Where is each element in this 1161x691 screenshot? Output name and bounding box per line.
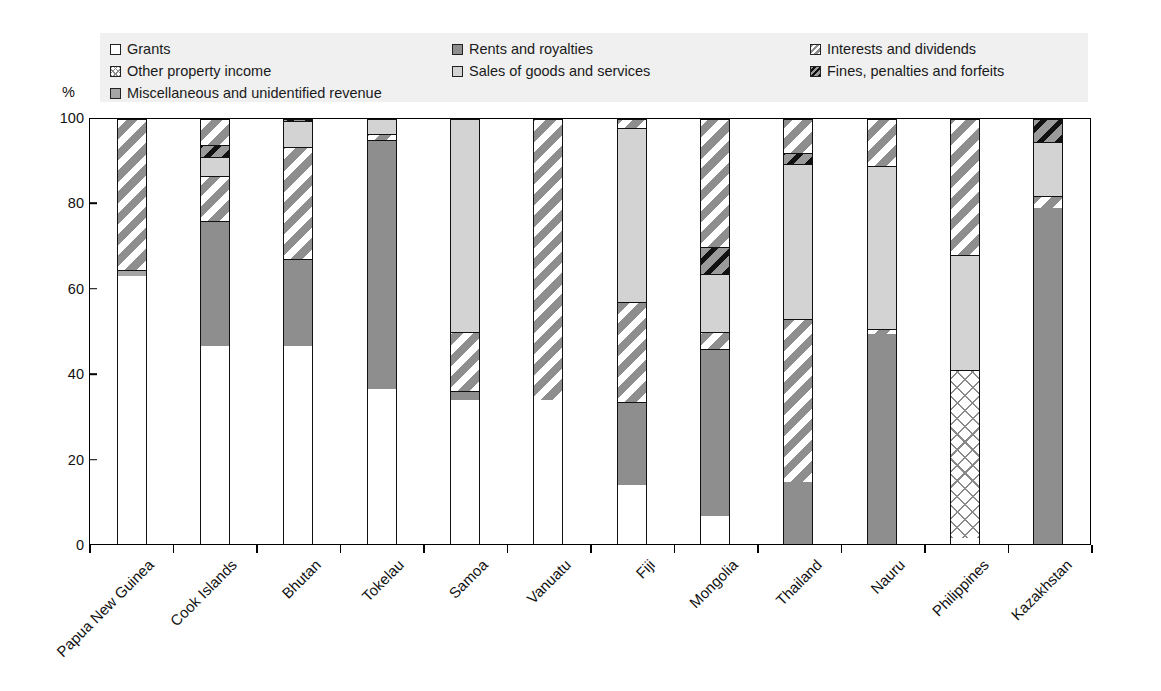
x-axis-tick-mark xyxy=(423,545,425,553)
bar-segment[interactable] xyxy=(951,119,979,255)
bar-segment[interactable] xyxy=(118,119,146,270)
bar-segment[interactable] xyxy=(118,276,146,544)
bar-slot xyxy=(257,119,340,544)
bar-segment[interactable] xyxy=(451,391,479,400)
stacked-bar[interactable] xyxy=(783,119,813,544)
stacked-bar[interactable] xyxy=(117,119,147,544)
bar-segment[interactable] xyxy=(1034,119,1062,142)
bar-segment[interactable] xyxy=(951,370,979,538)
bar-segment[interactable] xyxy=(368,119,396,134)
stacked-bar[interactable] xyxy=(450,119,480,544)
bar-segment[interactable] xyxy=(784,119,812,153)
bar-segment[interactable] xyxy=(368,389,396,544)
bar-segment[interactable] xyxy=(951,255,979,370)
legend-swatch-other-property-income xyxy=(110,66,121,77)
bar-segment[interactable] xyxy=(951,538,979,544)
bar-segment[interactable] xyxy=(618,402,646,485)
bar-segment[interactable] xyxy=(201,221,229,346)
x-axis-tick-mark xyxy=(1091,545,1093,553)
y-axis: 020406080100 xyxy=(40,0,84,691)
legend-column-2: Rents and royaltiesSales of goods and se… xyxy=(452,38,802,82)
bar-slot xyxy=(173,119,256,544)
bar-slot xyxy=(923,119,1006,544)
bar-segment[interactable] xyxy=(618,302,646,402)
y-axis-tick-label: 20 xyxy=(50,452,84,468)
bar-segment[interactable] xyxy=(701,274,729,331)
stacked-bar[interactable] xyxy=(700,119,730,544)
x-axis-category-label: Vanuatu xyxy=(524,556,575,607)
bars-container xyxy=(90,119,1090,544)
bar-segment[interactable] xyxy=(1034,208,1062,544)
bar-segment[interactable] xyxy=(201,346,229,544)
bar-segment[interactable] xyxy=(284,121,312,147)
x-axis-category-label: Tokelau xyxy=(359,556,408,605)
y-axis-tick-label: 100 xyxy=(50,110,84,126)
bar-segment[interactable] xyxy=(701,332,729,349)
bar-segment[interactable] xyxy=(784,319,812,483)
bar-segment[interactable] xyxy=(784,153,812,164)
bar-segment[interactable] xyxy=(451,332,479,392)
bar-segment[interactable] xyxy=(784,164,812,319)
legend-swatch-sales-of-goods-and-services xyxy=(452,66,463,77)
legend-item: Miscellaneous and unidentified revenue xyxy=(110,82,470,104)
legend-item-label: Miscellaneous and unidentified revenue xyxy=(127,82,382,104)
x-axis-category-label: Mongolia xyxy=(686,556,741,611)
bar-segment[interactable] xyxy=(618,128,646,302)
stacked-bar[interactable] xyxy=(950,119,980,544)
bar-segment[interactable] xyxy=(868,166,896,330)
bar-segment[interactable] xyxy=(701,119,729,247)
bar-segment[interactable] xyxy=(284,259,312,346)
bar-segment[interactable] xyxy=(701,516,729,544)
bar-segment[interactable] xyxy=(451,119,479,332)
y-axis-tick-label: 80 xyxy=(50,195,84,211)
bar-segment[interactable] xyxy=(201,145,229,158)
bar-slot xyxy=(840,119,923,544)
bar-segment[interactable] xyxy=(784,482,812,544)
legend-item-label: Other property income xyxy=(127,60,271,82)
bar-segment[interactable] xyxy=(284,346,312,544)
stacked-bar[interactable] xyxy=(533,119,563,544)
bar-segment[interactable] xyxy=(284,147,312,260)
x-axis-tick-mark xyxy=(256,545,258,553)
x-axis-category-label: Bhutan xyxy=(278,556,324,602)
bar-segment[interactable] xyxy=(1034,142,1062,195)
bar-segment[interactable] xyxy=(451,400,479,545)
bar-segment[interactable] xyxy=(701,349,729,517)
bar-slot xyxy=(590,119,673,544)
legend-swatch-miscellaneous xyxy=(110,88,121,99)
x-axis-tick-mark xyxy=(507,545,509,553)
bar-segment[interactable] xyxy=(368,140,396,389)
x-axis-tick-mark xyxy=(1008,545,1010,553)
legend-item: Fines, penalties and forfeits xyxy=(810,60,1085,82)
bar-segment[interactable] xyxy=(201,157,229,176)
stacked-bar[interactable] xyxy=(200,119,230,544)
plot-area xyxy=(89,118,1091,545)
bar-segment[interactable] xyxy=(534,119,562,400)
stacked-bar[interactable] xyxy=(867,119,897,544)
x-axis-tick-mark xyxy=(173,545,175,553)
bar-segment[interactable] xyxy=(868,119,896,166)
stacked-bar[interactable] xyxy=(617,119,647,544)
x-axis-category-label: Samoa xyxy=(445,556,491,602)
bar-segment[interactable] xyxy=(701,247,729,275)
legend-swatch-grants xyxy=(110,44,121,55)
bar-slot xyxy=(1007,119,1090,544)
x-axis-category-label: Thailand xyxy=(772,556,825,609)
bar-segment[interactable] xyxy=(1034,196,1062,209)
bar-segment[interactable] xyxy=(534,400,562,545)
bar-segment[interactable] xyxy=(618,485,646,545)
stacked-bar[interactable] xyxy=(283,119,313,544)
y-axis-tick-mark xyxy=(89,203,97,205)
bar-segment[interactable] xyxy=(868,334,896,544)
bar-segment[interactable] xyxy=(201,119,229,145)
bar-segment[interactable] xyxy=(618,119,646,128)
x-axis-category-label: Fiji xyxy=(632,556,658,582)
x-axis-tick-mark xyxy=(340,545,342,553)
x-axis-tick-mark xyxy=(674,545,676,553)
legend-item: Interests and dividends xyxy=(810,38,1085,60)
legend-column-3: Interests and dividendsFines, penalties … xyxy=(810,38,1085,82)
stacked-bar[interactable] xyxy=(1033,119,1063,544)
bar-segment[interactable] xyxy=(201,176,229,221)
legend-swatch-rents-and-royalties xyxy=(452,44,463,55)
stacked-bar[interactable] xyxy=(367,119,397,544)
